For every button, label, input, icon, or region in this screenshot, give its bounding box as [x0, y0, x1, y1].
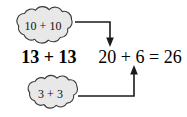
math-decomposition-diagram: 10 + 10 3 + 3 13 + 13 20 + 6 = 26	[0, 0, 187, 117]
bold-problem-expression: 13 + 13	[10, 48, 88, 66]
arrowhead-down-icon	[106, 38, 114, 48]
arrow-from-tens-cloud	[75, 22, 114, 47]
cloud-label-ones: 3 + 3	[22, 88, 79, 100]
result-equation: 20 + 6 = 26	[96, 48, 184, 66]
arrow-from-ones-cloud	[78, 65, 138, 96]
cloud-label-tens: 10 + 10	[10, 20, 76, 32]
